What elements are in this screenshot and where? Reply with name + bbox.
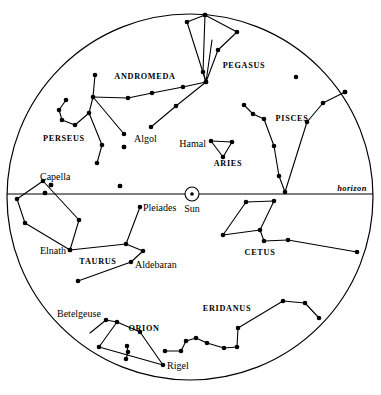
constellation-line-aries bbox=[211, 141, 223, 157]
constellation-line-pegasus bbox=[151, 106, 176, 127]
constellation-line-cetus bbox=[246, 201, 274, 202]
constellation-line-auriga bbox=[17, 199, 25, 223]
star-point-loose bbox=[294, 75, 299, 80]
star-point-taurus bbox=[138, 205, 143, 210]
star-point-pisces bbox=[283, 190, 288, 195]
star-point-taurus bbox=[76, 279, 81, 284]
star-point-auriga bbox=[23, 221, 28, 226]
star-point-pisces bbox=[277, 174, 282, 179]
constellation-label-pegasus: PEGASUS bbox=[223, 61, 266, 70]
star-point-cetus bbox=[262, 239, 267, 244]
star-point-taurus bbox=[124, 242, 129, 247]
constellation-line-pisces bbox=[274, 146, 279, 176]
horizon-label: horizon bbox=[337, 183, 367, 193]
star-point-perseus bbox=[64, 98, 69, 103]
constellation-line-cetus bbox=[288, 240, 357, 252]
constellation-line-orion bbox=[99, 347, 163, 365]
sky-chart-svg: ANDROMEDAPEGASUSPERSEUSPISCESARIESTAURUS… bbox=[0, 0, 381, 395]
star-point-loose bbox=[122, 145, 127, 150]
constellation-label-eridanus: ERIDANUS bbox=[203, 304, 251, 313]
star-point-auriga bbox=[15, 197, 20, 202]
star-point-orion bbox=[97, 345, 102, 350]
constellation-label-andromeda: ANDROMEDA bbox=[114, 72, 175, 81]
star-point-pegasus bbox=[235, 30, 240, 35]
star-point-pegasus bbox=[216, 48, 221, 53]
star-point-cetus bbox=[355, 250, 360, 255]
constellation-line-perseus bbox=[97, 145, 102, 163]
constellation-line-taurus bbox=[126, 244, 143, 251]
constellation-line-andromeda bbox=[152, 87, 183, 93]
star-point-eridanus bbox=[205, 341, 210, 346]
star-label-aldebaran: Aldebaran bbox=[135, 259, 177, 270]
star-point-eridanus bbox=[236, 326, 241, 331]
star-point-taurus bbox=[141, 249, 146, 254]
constellation-line-cetus bbox=[223, 202, 246, 235]
star-point-loose bbox=[118, 184, 123, 189]
sun-center-dot bbox=[190, 192, 194, 196]
star-point-andromeda bbox=[181, 85, 186, 90]
star-point-eridanus bbox=[222, 346, 227, 351]
star-point-pisces bbox=[242, 103, 247, 108]
star-point-andromeda bbox=[201, 70, 206, 75]
constellation-line-perseus bbox=[93, 97, 124, 134]
star-point-orion bbox=[126, 350, 131, 355]
constellation-line-orion bbox=[99, 322, 117, 347]
constellation-line-orion bbox=[90, 320, 106, 333]
constellation-line-taurus bbox=[70, 244, 126, 250]
chart-labels-group: ANDROMEDAPEGASUSPERSEUSPISCESARIESTAURUS… bbox=[40, 61, 367, 371]
star-label-betelgeuse: Betelgeuse bbox=[57, 308, 101, 319]
constellation-line-pegasus bbox=[218, 32, 237, 50]
star-point-pisces bbox=[272, 144, 277, 149]
star-point-cetus bbox=[272, 199, 277, 204]
constellation-line-eridanus bbox=[283, 301, 305, 303]
constellation-line-aries bbox=[223, 142, 232, 157]
sky-chart: ANDROMEDAPEGASUSPERSEUSPISCESARIESTAURUS… bbox=[0, 0, 381, 395]
star-point-pegasus bbox=[185, 20, 190, 25]
constellation-line-cetus bbox=[223, 230, 260, 235]
star-label-algol: Algol bbox=[134, 133, 157, 144]
star-point-perseus bbox=[93, 73, 98, 78]
star-point-eridanus bbox=[179, 349, 184, 354]
constellation-line-eridanus bbox=[237, 328, 238, 347]
star-point-cetus bbox=[221, 233, 226, 238]
star-point-eridanus bbox=[303, 301, 308, 306]
star-point-perseus bbox=[122, 132, 127, 137]
star-point-eridanus bbox=[281, 299, 286, 304]
constellation-line-pisces bbox=[307, 103, 323, 122]
star-point-perseus bbox=[95, 161, 100, 166]
constellation-line-perseus bbox=[93, 75, 95, 97]
constellation-line-aries bbox=[211, 141, 232, 142]
constellation-label-aries: ARIES bbox=[214, 159, 243, 168]
star-point-eridanus bbox=[184, 339, 189, 344]
constellation-line-perseus bbox=[75, 113, 89, 125]
star-point-pegasus bbox=[149, 125, 154, 130]
star-point-andromeda bbox=[204, 80, 209, 85]
star-label-elnath: Elnath bbox=[40, 245, 66, 256]
constellation-line-taurus bbox=[126, 207, 140, 244]
constellation-label-taurus: TAURUS bbox=[79, 257, 116, 266]
constellation-line-pegasus bbox=[187, 15, 205, 22]
constellation-line-pisces bbox=[323, 92, 345, 103]
star-point-pisces bbox=[251, 112, 256, 117]
constellation-label-perseus: PERSEUS bbox=[43, 134, 85, 143]
star-label-hamal: Hamal bbox=[179, 138, 206, 149]
star-point-cetus bbox=[258, 228, 263, 233]
star-point-loose bbox=[43, 191, 48, 196]
constellation-label-pisces: PISCES bbox=[276, 114, 309, 123]
star-point-eridanus bbox=[317, 316, 322, 321]
constellation-line-perseus bbox=[93, 97, 128, 98]
star-point-eridanus bbox=[235, 345, 240, 350]
star-point-pisces bbox=[262, 117, 267, 122]
star-point-perseus bbox=[73, 123, 78, 128]
star-point-orion bbox=[115, 320, 120, 325]
sun-label: Sun bbox=[184, 203, 200, 214]
star-point-perseus bbox=[87, 111, 92, 116]
star-label-capella: Capella bbox=[40, 171, 71, 182]
star-point-orion bbox=[124, 357, 129, 362]
constellation-label-cetus: CETUS bbox=[245, 248, 276, 257]
star-point-loose bbox=[49, 183, 54, 188]
constellation-line-andromeda bbox=[203, 15, 205, 72]
star-point-andromeda bbox=[126, 96, 131, 101]
star-point-perseus bbox=[100, 143, 105, 148]
constellation-line-eridanus bbox=[207, 343, 224, 348]
